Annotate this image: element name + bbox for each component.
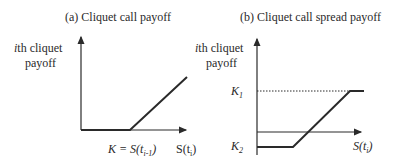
strike-sub: i-1 [143,149,152,158]
x-label-text: S(t [353,139,366,153]
y-label-rest: th cliquet [198,41,243,55]
strike-close: ) [152,142,156,156]
panel-b-k1-label: K1 [231,85,243,100]
x-label-close: ) [192,142,196,156]
k1-sub: 1 [239,91,243,100]
panel-b-k2-label: K2 [231,140,243,155]
panel-b-y-label-line2: payoff [206,57,237,69]
strike-text: K = S(t [108,142,143,156]
panel-b-x-label: S(ti) [353,140,373,155]
panel-b-title: (b) Cliquet call spread payoff [240,11,381,23]
payoff-diagrams [0,0,393,165]
panel-a-y-label-line2: payoff [25,57,56,69]
k2-text: K [231,139,239,153]
panel-a-chart [81,37,187,130]
x-label-text: S(t [176,142,190,156]
panel-b-chart [257,39,364,155]
y-label-rest: th cliquet [17,41,62,55]
panel-a-title: (a) Cliquet call payoff [65,11,171,23]
panel-a-payoff-line [81,77,187,130]
panel-b-payoff-line [257,91,364,147]
panel-a-strike-label: K = S(ti-1) [108,143,156,158]
k1-text: K [231,84,239,98]
x-label-close: ) [369,139,373,153]
panel-b-y-label-line1: ith cliquet [195,42,243,54]
panel-a-x-label: S(ti) [176,143,196,158]
panel-a-y-label-line1: ith cliquet [14,42,62,54]
k2-sub: 2 [239,146,243,155]
